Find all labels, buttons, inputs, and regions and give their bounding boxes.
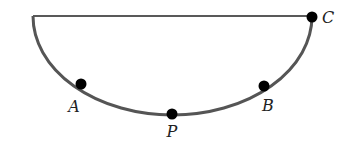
point-p xyxy=(167,109,178,120)
label-a: A xyxy=(66,97,80,116)
semicircle-diagram: APBC xyxy=(0,0,350,149)
label-c: C xyxy=(322,8,334,27)
point-b xyxy=(259,81,270,92)
label-p: P xyxy=(166,122,178,141)
point-a xyxy=(76,79,87,90)
point-c xyxy=(307,12,318,23)
label-b: B xyxy=(261,96,274,115)
